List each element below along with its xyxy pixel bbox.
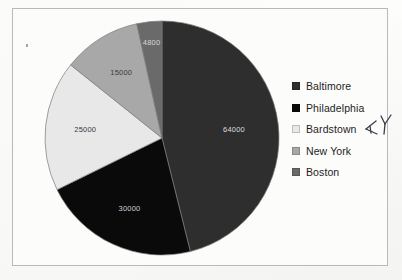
legend-swatch-philadelphia xyxy=(292,104,300,112)
slice-value-new-york: 15000 xyxy=(110,68,132,77)
legend-label-new-york: New York xyxy=(306,145,351,157)
legend-swatch-boston xyxy=(292,168,300,176)
pie-graphic: 640003000025000150004800 xyxy=(42,18,282,258)
slice-value-philadelphia: 30000 xyxy=(119,204,141,213)
legend-label-baltimore: Baltimore xyxy=(306,80,351,92)
slice-value-baltimore: 64000 xyxy=(223,125,245,134)
slice-value-boston: 4800 xyxy=(143,38,161,47)
legend-label-boston: Boston xyxy=(306,166,339,178)
legend-swatch-new-york xyxy=(292,147,300,155)
legend-label-philadelphia: Philadelphia xyxy=(306,102,364,114)
legend: Baltimore Philadelphia Bardstown New Yor… xyxy=(292,80,364,178)
legend-label-bardstown: Bardstown xyxy=(306,123,357,135)
pie-svg: 640003000025000150004800 xyxy=(42,18,282,258)
pie-chart: 640003000025000150004800 Baltimore Phila… xyxy=(12,8,388,266)
legend-item-baltimore[interactable]: Baltimore xyxy=(292,80,364,92)
legend-swatch-bardstown xyxy=(292,125,300,133)
handwritten-ky-annotation xyxy=(364,112,398,144)
legend-item-philadelphia[interactable]: Philadelphia xyxy=(292,102,364,114)
legend-item-new-york[interactable]: New York xyxy=(292,145,364,157)
legend-item-bardstown[interactable]: Bardstown xyxy=(292,123,364,135)
pie-slices xyxy=(45,21,279,255)
slice-value-bardstown: 25000 xyxy=(74,125,96,134)
scanned-page: 640003000025000150004800 Baltimore Phila… xyxy=(0,0,402,280)
legend-swatch-baltimore xyxy=(292,82,300,90)
legend-item-boston[interactable]: Boston xyxy=(292,166,364,178)
